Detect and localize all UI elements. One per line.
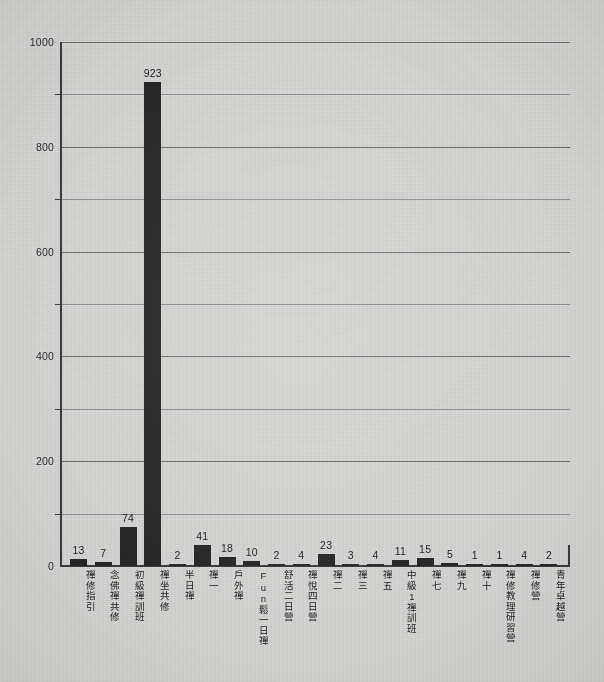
bar[interactable] <box>466 564 483 566</box>
x-axis-category-label: 舒活二日營 <box>271 570 293 623</box>
bar-group[interactable]: 1 <box>491 42 508 566</box>
bar[interactable] <box>540 564 557 566</box>
x-axis-category-label: 青年卓越營 <box>543 570 565 623</box>
bar[interactable] <box>144 82 161 566</box>
y-axis-tick-label: 200 <box>8 455 54 467</box>
bar-value-label: 4 <box>298 549 304 561</box>
x-axis-category-label: 禪七 <box>419 570 441 591</box>
bar-group[interactable]: 11 <box>392 42 409 566</box>
bar-group[interactable]: 15 <box>417 42 434 566</box>
bar-group[interactable]: 10 <box>243 42 260 566</box>
x-axis-category-labels: 禪修指引念佛禪共修初級禪訓班禪坐共修半日禪禪一戶外禪Fun鬆一日禪舒活二日營禪悅… <box>60 570 570 680</box>
x-axis-category-label: 禪修指引 <box>73 570 95 612</box>
x-axis-category-label: 禪悅四日營 <box>295 570 317 623</box>
bar-value-label: 4 <box>521 549 527 561</box>
bar[interactable] <box>194 545 211 566</box>
x-axis-category-label: 禪五 <box>370 570 392 591</box>
bar[interactable] <box>219 557 236 566</box>
x-axis-category-label: 禪九 <box>444 570 466 591</box>
bar-group[interactable]: 5 <box>441 42 458 566</box>
bar-group[interactable]: 1 <box>466 42 483 566</box>
bar[interactable] <box>441 563 458 566</box>
bar-value-label: 3 <box>348 549 354 561</box>
bar[interactable] <box>95 562 112 566</box>
x-axis-category-label: 戶外禪 <box>221 570 243 602</box>
bar[interactable] <box>293 564 310 566</box>
bar-value-label: 4 <box>373 549 379 561</box>
bar[interactable] <box>70 559 87 566</box>
y-axis-tick-label: 1000 <box>8 36 54 48</box>
y-axis-tick-label: 0 <box>8 560 54 572</box>
bar-value-label: 7 <box>100 547 106 559</box>
y-axis-tick-label: 800 <box>8 141 54 153</box>
bar-value-label: 2 <box>175 549 181 561</box>
x-axis-category-label: 禪十 <box>469 570 491 591</box>
x-axis-category-label: 初級禪訓班 <box>122 570 144 623</box>
bar-value-label: 23 <box>320 539 332 551</box>
bar-value-label: 13 <box>73 544 85 556</box>
x-axis-category-label: 禪一 <box>196 570 218 591</box>
bar[interactable] <box>318 554 335 566</box>
bar-value-label: 5 <box>447 548 453 560</box>
bar-group[interactable]: 4 <box>293 42 310 566</box>
bar[interactable] <box>491 564 508 566</box>
x-axis-category-label: 禪三 <box>345 570 367 591</box>
bar[interactable] <box>243 561 260 566</box>
bar[interactable] <box>120 527 137 566</box>
bar[interactable] <box>367 564 384 566</box>
bar[interactable] <box>417 558 434 566</box>
bar[interactable] <box>392 560 409 566</box>
bar[interactable] <box>169 564 186 566</box>
bar-group[interactable]: 3 <box>342 42 359 566</box>
bar-value-label: 10 <box>246 546 258 558</box>
x-axis-category-label: Fun鬆一日禪 <box>246 570 268 647</box>
bar-group[interactable]: 4 <box>367 42 384 566</box>
x-axis-category-label: 禪二 <box>320 570 342 591</box>
bar-group[interactable]: 2 <box>268 42 285 566</box>
bar-group[interactable]: 4 <box>516 42 533 566</box>
bar-value-label: 15 <box>419 543 431 555</box>
bar[interactable] <box>268 564 285 566</box>
bar-group[interactable]: 2 <box>169 42 186 566</box>
y-axis-tick-label: 400 <box>8 350 54 362</box>
bar-value-label: 2 <box>546 549 552 561</box>
x-axis-category-label: 中級1禪訓班 <box>394 570 416 634</box>
bar-group[interactable]: 2 <box>540 42 557 566</box>
bar-value-label: 18 <box>221 542 233 554</box>
y-axis-tick-label: 600 <box>8 246 54 258</box>
bar-value-label: 11 <box>395 545 406 557</box>
bar-group[interactable]: 74 <box>120 42 137 566</box>
bar-value-label: 923 <box>144 67 162 79</box>
x-axis-category-label: 禪修教理研習營 <box>493 570 515 644</box>
bar-value-label: 1 <box>472 549 478 561</box>
bar[interactable] <box>342 564 359 566</box>
bar[interactable] <box>516 564 533 566</box>
bar-value-label: 2 <box>274 549 280 561</box>
x-axis-category-label: 念佛禪共修 <box>97 570 119 623</box>
bar-group[interactable]: 23 <box>318 42 335 566</box>
x-axis-category-label: 禪坐共修 <box>147 570 169 612</box>
bar-group[interactable]: 923 <box>144 42 161 566</box>
bars-layer: 137749232411810242334111551142 <box>60 42 570 566</box>
x-axis-category-label: 半日禪 <box>172 570 194 602</box>
y-axis-tick-labels: 02004006008001000 <box>6 0 54 682</box>
bar-value-label: 74 <box>122 512 134 524</box>
bar-value-label: 41 <box>196 530 208 542</box>
bar-value-label: 1 <box>496 549 502 561</box>
bar-group[interactable]: 7 <box>95 42 112 566</box>
x-axis-category-label: 禪修營 <box>518 570 540 602</box>
bar-group[interactable]: 18 <box>219 42 236 566</box>
bar-group[interactable]: 41 <box>194 42 211 566</box>
bar-chart-figure: 02004006008001000 1377492324118102423341… <box>0 0 604 682</box>
bar-group[interactable]: 13 <box>70 42 87 566</box>
